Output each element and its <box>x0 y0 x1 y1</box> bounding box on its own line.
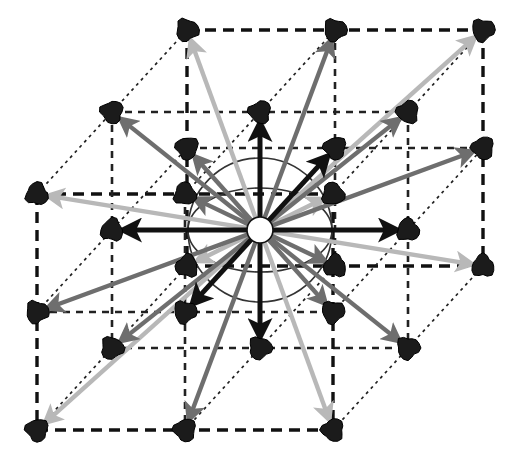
lattice-node[interactable] <box>100 101 124 123</box>
neighbor-vector-n_1_0_1 <box>271 152 471 225</box>
lattice-node[interactable] <box>325 18 347 42</box>
lattice-node[interactable] <box>472 253 494 277</box>
lattice-diagram-svg <box>0 0 519 462</box>
lattice-node[interactable] <box>24 420 48 442</box>
lattice-node[interactable] <box>321 182 345 204</box>
lattice-node[interactable] <box>25 182 49 205</box>
lattice-node[interactable] <box>398 337 421 360</box>
lattice-figure-canvas <box>0 0 519 462</box>
lattice-node[interactable] <box>473 19 496 43</box>
lattice-node[interactable] <box>172 419 196 441</box>
lattice-node[interactable] <box>247 101 270 124</box>
lattice-node[interactable] <box>27 300 49 324</box>
neighbor-vector-n_1_1_0 <box>269 120 397 222</box>
lattice-node[interactable] <box>175 301 197 325</box>
lattice-node[interactable] <box>397 217 420 240</box>
lattice-node[interactable] <box>470 137 493 160</box>
lattice-node[interactable] <box>177 18 200 42</box>
neighbor-vector-n_-1_0_-1 <box>49 234 249 307</box>
origin-node[interactable] <box>247 217 273 243</box>
lattice-node[interactable] <box>100 217 122 241</box>
lattice-node[interactable] <box>320 419 343 442</box>
lattice-node[interactable] <box>175 138 199 160</box>
lattice-node[interactable] <box>323 301 345 325</box>
lattice-node[interactable] <box>250 337 273 360</box>
lattice-node[interactable] <box>322 138 346 161</box>
neighbor-vector-n_-1_1_0 <box>122 120 250 222</box>
lattice-node[interactable] <box>173 182 197 204</box>
